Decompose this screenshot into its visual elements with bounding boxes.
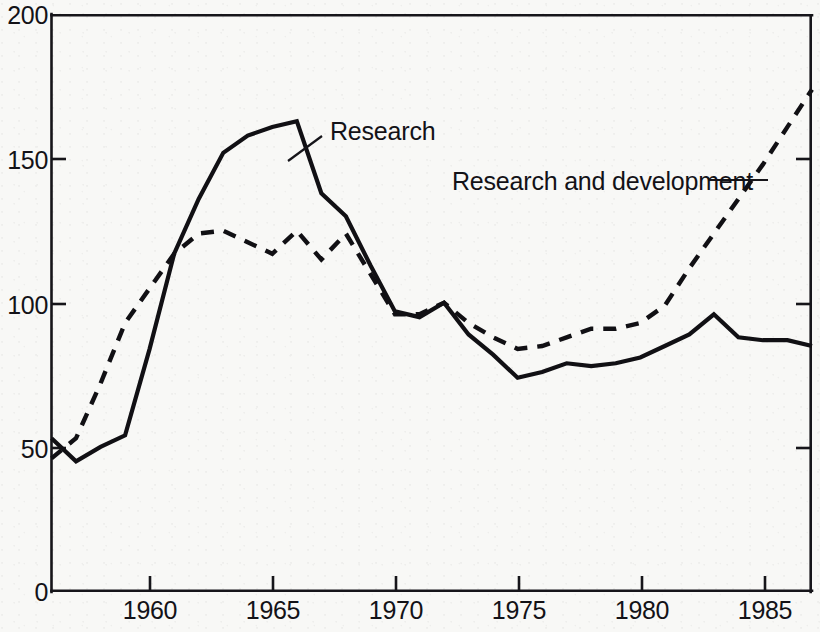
y-tick-label-0: 0 [0,578,48,607]
x-tick-label-1970: 1970 [341,596,451,625]
x-tick-label-1975: 1975 [464,596,574,625]
y-tick-label-200: 200 [0,1,48,30]
y-axis-ticks [52,159,811,448]
y-tick-label-100: 100 [0,291,48,320]
y-tick-label-150: 150 [0,146,48,175]
x-tick-label-1965: 1965 [218,596,328,625]
y-tick-label-50: 50 [0,435,48,464]
x-axis-ticks [150,576,765,591]
x-tick-label-1960: 1960 [95,596,205,625]
x-tick-label-1980: 1980 [587,596,697,625]
chart-figure: 200 150 100 50 0 1960 1965 1970 1975 198… [0,0,820,632]
x-tick-label-1985: 1985 [710,596,820,625]
line-chart-canvas [0,0,820,632]
series-label-research: Research [330,117,435,146]
series-label-research-and-development: Research and development [452,167,753,196]
